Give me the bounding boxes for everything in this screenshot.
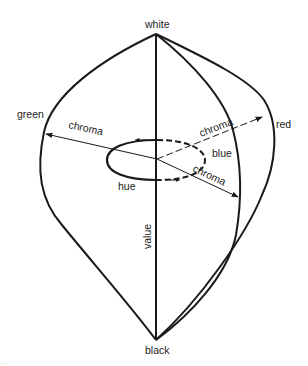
label-value: value	[141, 224, 153, 249]
label-white: white	[144, 18, 170, 30]
label-hue: hue	[118, 180, 136, 192]
label-chroma-left: chroma	[68, 118, 105, 137]
hue-ring-solid	[107, 140, 157, 180]
label-black: black	[145, 344, 170, 356]
left-contour	[40, 34, 156, 340]
chroma-arrow-left	[46, 134, 157, 159]
label-blue: blue	[212, 147, 232, 159]
label-green: green	[17, 108, 44, 120]
faint-footer-text: ...	[2, 357, 9, 366]
label-red: red	[276, 118, 291, 130]
munsell-color-solid-diagram: white black green red blue hue value chr…	[0, 0, 308, 366]
outer-right-contour	[156, 34, 274, 340]
